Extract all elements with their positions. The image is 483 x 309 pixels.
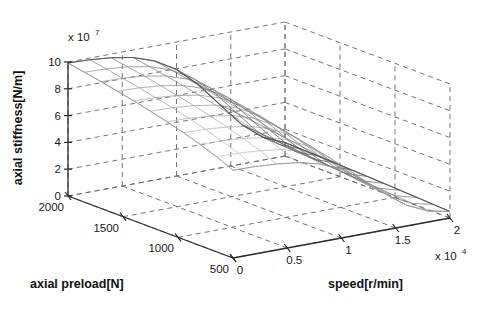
svg-text:2: 2 <box>55 163 61 175</box>
z-exponent-power: 7 <box>95 28 100 37</box>
y-axis-exponent: x 10 4 <box>435 247 467 262</box>
svg-text:8: 8 <box>55 83 61 95</box>
z-axis-label: axial stiffness[N/m] <box>11 71 25 186</box>
matlab-figure-canvas: 024681020001500100050000.511.52 x 10 7 x… <box>0 0 483 309</box>
svg-text:1: 1 <box>345 244 351 256</box>
surface-mesh <box>68 58 450 212</box>
svg-text:4: 4 <box>55 136 62 148</box>
svg-text:1.5: 1.5 <box>395 234 411 246</box>
svg-text:500: 500 <box>210 263 229 275</box>
axis-lines <box>68 62 450 258</box>
z-exponent-base: x 10 <box>68 31 90 43</box>
z-axis-exponent: x 10 7 <box>68 28 100 43</box>
svg-text:0.5: 0.5 <box>286 254 302 266</box>
y-exponent-base: x 10 <box>435 250 457 262</box>
floor-gridlines <box>68 156 450 258</box>
svg-text:2: 2 <box>454 224 460 236</box>
svg-text:1500: 1500 <box>93 222 119 234</box>
x-axis-label: axial preload[N] <box>30 277 124 291</box>
svg-text:1000: 1000 <box>148 242 174 254</box>
y-exponent-power: 4 <box>462 247 467 256</box>
y-axis-label: speed[r/min] <box>328 277 403 291</box>
tick-labels: 024681020001500100050000.511.52 <box>38 56 460 276</box>
svg-text:0: 0 <box>237 264 243 276</box>
surface-plot-3d: 024681020001500100050000.511.52 x 10 7 x… <box>0 0 483 309</box>
svg-text:6: 6 <box>55 110 61 122</box>
svg-text:10: 10 <box>48 56 61 68</box>
svg-text:2000: 2000 <box>38 201 64 213</box>
